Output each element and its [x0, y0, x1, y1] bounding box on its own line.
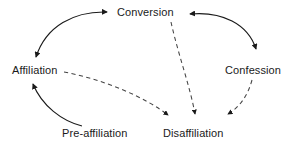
node-disaffiliation: Disaffiliation [163, 127, 224, 140]
edge-conversion-disaffiliation [171, 22, 195, 114]
edge-preaffiliation-affiliation [33, 84, 82, 126]
node-pre-affiliation: Pre-affiliation [62, 127, 128, 140]
edge-confession-disaffiliation [228, 80, 252, 114]
edge-affiliation-conversion [36, 12, 107, 57]
node-affiliation: Affiliation [12, 64, 58, 77]
edge-conversion-confession [190, 14, 256, 49]
node-confession: Confession [225, 64, 281, 77]
node-conversion: Conversion [117, 6, 174, 19]
diagram-canvas: Conversion Affiliation Confession Pre-af… [0, 0, 292, 148]
edge-affiliation-disaffiliation [64, 72, 168, 115]
